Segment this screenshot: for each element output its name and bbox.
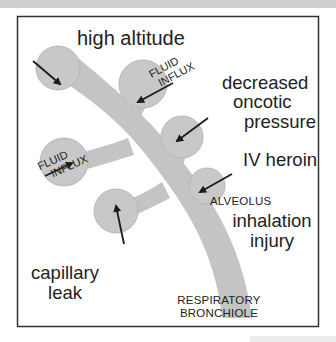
label-inhalation: inhalation	[222, 212, 322, 231]
alveolus-bottom	[94, 189, 138, 233]
label-pressure: pressure	[244, 113, 316, 132]
label-capillary: capillary	[24, 264, 106, 283]
label-iv-heroin: IV heroin	[243, 151, 317, 170]
label-injury: injury	[222, 232, 322, 251]
title-high-altitude: high altitude	[77, 28, 185, 48]
label-alveolus: ALVEOLUS	[210, 196, 271, 208]
label-bronchiole: BRONCHIOLE	[164, 308, 274, 320]
label-oncotic: oncotic	[233, 93, 292, 112]
label-respiratory: RESPIRATORY	[164, 295, 274, 307]
label-leak: leak	[24, 284, 106, 303]
label-decreased: decreased	[222, 74, 308, 93]
